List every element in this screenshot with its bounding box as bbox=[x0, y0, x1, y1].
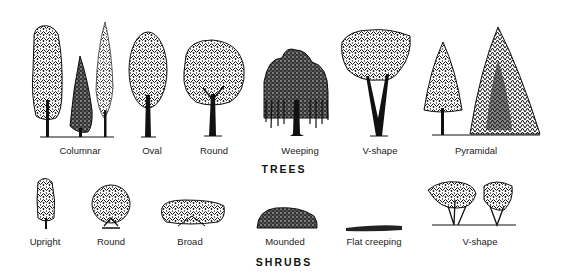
shrubs-heading: SHRUBS bbox=[256, 256, 312, 268]
mounded-shrub-icon bbox=[257, 208, 317, 228]
tree-label-round: Round bbox=[200, 145, 228, 156]
weeping-tree-icon bbox=[264, 49, 328, 136]
v-shape-shrub-icon bbox=[428, 182, 516, 225]
v-shape-tree-icon bbox=[342, 30, 411, 136]
tree-label-columnar: Columnar bbox=[59, 145, 100, 156]
shrub-label-broad: Broad bbox=[177, 236, 202, 247]
tree-label-v-shape: V-shape bbox=[363, 145, 398, 156]
broad-shrub-icon bbox=[162, 200, 225, 226]
columnar-tree-icon bbox=[32, 22, 114, 137]
plant-forms-illustration bbox=[0, 0, 569, 276]
pyramidal-tree-icon bbox=[424, 27, 540, 135]
tree-label-pyramidal: Pyramidal bbox=[455, 145, 497, 156]
oval-tree-icon bbox=[129, 32, 167, 137]
shrub-label-round: Round bbox=[97, 236, 125, 247]
shrub-label-v-shape: V-shape bbox=[463, 236, 498, 247]
upright-shrub-icon bbox=[37, 179, 55, 230]
tree-label-weeping: Weeping bbox=[281, 145, 318, 156]
round-shrub-icon bbox=[92, 185, 130, 228]
shrub-label-mounded: Mounded bbox=[265, 236, 305, 247]
flat-creeping-shrub-icon bbox=[346, 225, 402, 231]
tree-label-oval: Oval bbox=[142, 145, 162, 156]
shrub-label-upright: Upright bbox=[30, 236, 61, 247]
shrub-label-flat-creeping: Flat creeping bbox=[347, 236, 402, 247]
trees-heading: TREES bbox=[261, 163, 306, 175]
round-tree-icon bbox=[184, 40, 244, 136]
